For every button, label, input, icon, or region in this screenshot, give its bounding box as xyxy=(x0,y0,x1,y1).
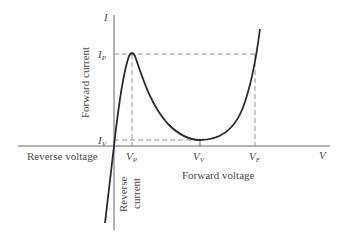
y-axis-symbol: I xyxy=(104,12,108,23)
x-axis-symbol: V xyxy=(319,150,326,161)
forward-voltage-label: Forward voltage xyxy=(182,170,254,181)
forward-current-label: Forward current xyxy=(80,47,91,118)
reverse-voltage-label: Reverse voltage xyxy=(27,151,98,162)
forward-voltage-point-label: VF xyxy=(249,151,260,164)
reverse-current-label-line1: Reverse xyxy=(118,177,129,212)
peak-voltage-label: VP xyxy=(126,151,137,164)
reverse-current-label-line2: current xyxy=(131,178,142,209)
valley-voltage-label: VV xyxy=(193,151,204,164)
valley-current-label: IV xyxy=(98,135,106,148)
iv-curve-diagram xyxy=(0,0,354,243)
peak-current-label: IP xyxy=(98,49,106,62)
